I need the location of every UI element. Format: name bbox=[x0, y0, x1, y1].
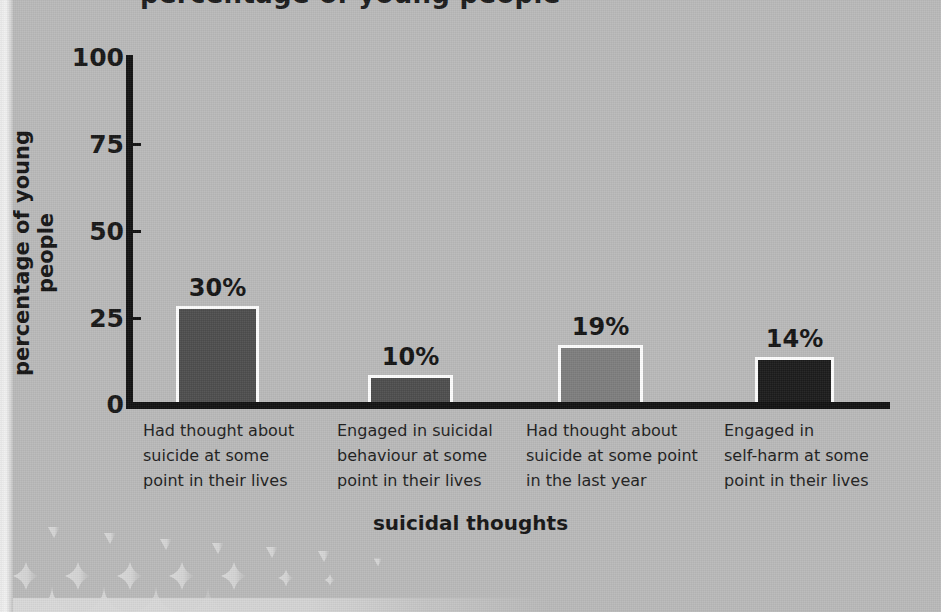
bar-chart: percentage of young people 100 75 50 25 … bbox=[0, 0, 941, 612]
bar-4-value-label: 14% bbox=[766, 325, 823, 353]
page-edge-strip bbox=[0, 0, 13, 612]
y-tick-label-100: 100 bbox=[64, 43, 124, 72]
category-label-1: Had thought about suicide at some point … bbox=[143, 418, 323, 493]
y-tick-label-0: 0 bbox=[64, 390, 124, 419]
y-tick-label-75: 75 bbox=[64, 130, 124, 159]
plot-area: 30% 10% 19% 14% bbox=[131, 57, 891, 405]
category-label-4-line-2: self-harm at some bbox=[724, 443, 914, 468]
category-label-3: Had thought about suicide at some point … bbox=[526, 418, 721, 493]
x-axis-title: suicidal thoughts bbox=[0, 511, 941, 535]
y-tick-mark-75 bbox=[133, 143, 141, 146]
bar-3[interactable] bbox=[558, 345, 643, 405]
category-label-3-line-2: suicide at some point bbox=[526, 443, 721, 468]
category-label-2-line-2: behaviour at some bbox=[337, 443, 522, 468]
category-label-2: Engaged in suicidal behaviour at some po… bbox=[337, 418, 522, 493]
y-tick-mark-25 bbox=[133, 317, 141, 320]
bar-group-2: 10% bbox=[368, 57, 453, 405]
bar-3-value-label: 19% bbox=[572, 313, 629, 341]
category-label-1-line-1: Had thought about bbox=[143, 418, 323, 443]
category-label-2-line-1: Engaged in suicidal bbox=[337, 418, 522, 443]
bar-group-4: 14% bbox=[755, 57, 834, 405]
bar-2[interactable] bbox=[368, 375, 453, 405]
y-tick-mark-50 bbox=[133, 230, 141, 233]
bar-group-1: 30% bbox=[176, 57, 259, 405]
category-label-4: Engaged in self-harm at some point in th… bbox=[724, 418, 914, 493]
category-label-2-line-3: point in their lives bbox=[337, 468, 522, 493]
bar-1[interactable] bbox=[176, 306, 259, 405]
bar-1-value-label: 30% bbox=[189, 274, 246, 302]
category-label-3-line-3: in the last year bbox=[526, 468, 721, 493]
x-axis-line bbox=[126, 402, 890, 409]
bar-2-value-label: 10% bbox=[382, 343, 439, 371]
y-tick-label-50: 50 bbox=[64, 217, 124, 246]
y-axis-line bbox=[126, 55, 133, 407]
category-label-4-line-1: Engaged in bbox=[724, 418, 914, 443]
category-label-1-line-3: point in their lives bbox=[143, 468, 323, 493]
y-tick-label-25: 25 bbox=[64, 304, 124, 333]
bar-4[interactable] bbox=[755, 357, 834, 405]
bar-group-3: 19% bbox=[558, 57, 643, 405]
category-label-1-line-2: suicide at some bbox=[143, 443, 323, 468]
category-label-3-line-1: Had thought about bbox=[526, 418, 721, 443]
category-label-4-line-3: point in their lives bbox=[724, 468, 914, 493]
